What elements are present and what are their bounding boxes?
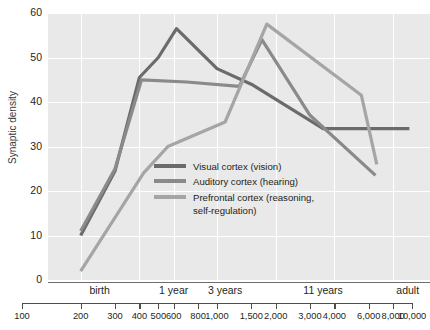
y-tick-label: 40 (0, 95, 42, 107)
series-line-prefrontal-cortex (81, 24, 377, 271)
legend-label-auditory-cortex: Auditory cortex (hearing) (193, 175, 298, 188)
x-tick-label: 6,000 (357, 311, 380, 321)
y-tick-label: 50 (0, 51, 42, 63)
legend-label-visual-cortex: Visual cortex (vision) (193, 160, 281, 173)
x-tick-label: 500 (151, 311, 167, 321)
legend-item: Auditory cortex (hearing) (154, 175, 314, 188)
x-tick-mark (393, 303, 394, 309)
x-tick-mark (412, 303, 413, 309)
x-tick-mark (174, 303, 175, 309)
y-tick-label: 20 (0, 184, 42, 196)
x-tick-label: 1,500 (240, 311, 263, 321)
period-axis: birth1 year3 years11 yearsadult (48, 282, 430, 299)
x-tick-mark (139, 303, 140, 309)
x-tick-label: 800 (190, 311, 206, 321)
x-tick-mark (251, 303, 252, 309)
synaptic-density-chart: Synaptic density 0102030405060 Visual co… (0, 0, 430, 330)
y-tick-label: 10 (0, 229, 42, 241)
x-tick-label: 1,000 (205, 311, 228, 321)
legend-item: Prefrontal cortex (reasoning, self-regul… (154, 191, 314, 217)
y-tick-label: 0 (0, 273, 42, 285)
numeric-log-axis: 1002003004005006008001,0001,5002,0003,00… (22, 303, 412, 329)
x-tick-mark (198, 303, 199, 309)
x-tick-label: 400 (132, 311, 148, 321)
x-tick-label: 4,000 (323, 311, 346, 321)
period-label: adult (396, 284, 419, 296)
x-tick-label: 10,000 (398, 311, 426, 321)
series-lines (48, 13, 430, 280)
x-tick-label: 300 (107, 311, 123, 321)
legend-swatch-visual-cortex (154, 164, 186, 168)
x-tick-mark (310, 303, 311, 309)
x-tick-mark (369, 303, 370, 309)
x-tick-mark (158, 303, 159, 309)
legend-item: Visual cortex (vision) (154, 160, 314, 173)
period-label: birth (89, 284, 109, 296)
x-tick-label: 200 (73, 311, 89, 321)
x-tick-mark (217, 303, 218, 309)
x-tick-mark (276, 303, 277, 309)
y-tick-label: 30 (0, 140, 42, 152)
legend-swatch-auditory-cortex (154, 179, 186, 183)
x-tick-label: 3,000 (298, 311, 321, 321)
x-tick-mark (334, 303, 335, 309)
legend-swatch-prefrontal-cortex (154, 195, 186, 199)
period-label: 11 years (303, 284, 343, 296)
x-tick-mark (81, 303, 82, 309)
x-tick-label: 2,000 (264, 311, 287, 321)
y-tick-label: 60 (0, 6, 42, 18)
y-axis-title: Synaptic density (7, 58, 18, 198)
legend-label-prefrontal-cortex: Prefrontal cortex (reasoning, self-regul… (193, 191, 314, 217)
x-tick-label: 600 (166, 311, 182, 321)
period-label: 3 years (208, 284, 242, 296)
x-tick-mark (115, 303, 116, 309)
plot-area (48, 13, 400, 280)
chart-legend: Visual cortex (vision) Auditory cortex (… (154, 160, 314, 219)
period-label: 1 year (159, 284, 188, 296)
x-tick-mark (22, 303, 23, 309)
x-tick-label: 100 (14, 311, 30, 321)
